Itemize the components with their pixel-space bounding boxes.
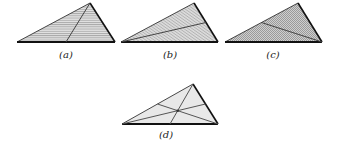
panel-d: (d) — [122, 84, 218, 140]
label-a: (a) — [59, 49, 73, 60]
label-c: (c) — [266, 49, 280, 60]
centroid-point — [176, 109, 179, 112]
triangle-c — [225, 3, 322, 42]
label-d: (d) — [159, 129, 173, 140]
panel-c: (c) — [225, 3, 322, 60]
triangle-a — [17, 3, 115, 42]
label-b: (b) — [163, 49, 177, 60]
panel-b: (b) — [121, 3, 218, 60]
panel-a: (a) — [17, 3, 115, 60]
medians-figure: (a) (b) (c) (d) — [0, 0, 337, 141]
triangle-b — [121, 3, 218, 42]
